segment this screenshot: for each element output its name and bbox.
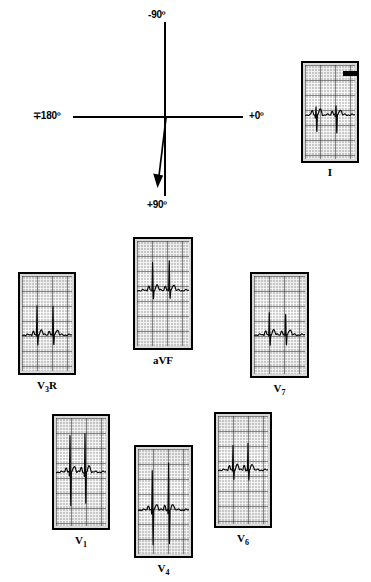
ecg-strip-v3r xyxy=(18,272,76,375)
axis-label-plus-0: +0º xyxy=(249,110,263,121)
ecg-waveform xyxy=(138,449,189,554)
ecg-grid xyxy=(22,276,72,371)
ecg-grid xyxy=(56,418,106,526)
ecg-strip-label-i: I xyxy=(301,166,359,178)
ecg-waveform xyxy=(137,241,189,346)
ecg-strip-label-v4: V4 xyxy=(134,562,193,577)
ecg-waveform xyxy=(56,418,106,526)
calibration-marker xyxy=(343,71,357,76)
ecg-waveform xyxy=(218,416,268,524)
axis-label-minus-90: -90º xyxy=(148,9,165,20)
ecg-strip-i xyxy=(301,61,359,163)
ecg-strip-label-v1: V1 xyxy=(52,534,110,549)
ecg-strip-label-avf: aVF xyxy=(133,354,193,366)
ecg-strip-v6 xyxy=(214,412,272,528)
ecg-waveform xyxy=(254,276,305,374)
ecg-strip-v7 xyxy=(250,272,309,378)
ecg-grid xyxy=(254,276,305,374)
ecg-strip-v4 xyxy=(134,445,193,558)
ecg-strip-avf xyxy=(133,237,193,350)
ecg-strip-v1 xyxy=(52,414,110,530)
ecg-waveform xyxy=(22,276,72,371)
axis-label-180: ∓180º xyxy=(33,110,60,121)
ecg-grid xyxy=(137,241,189,346)
axis-label-plus-90: +90º xyxy=(147,199,167,210)
ecg-grid xyxy=(305,65,355,159)
ecg-grid xyxy=(218,416,268,524)
ecg-strip-label-v3r: V3R xyxy=(18,379,76,394)
figure-canvas: -90º ∓180º +0º +90º IV3RaVFV7V1V4V6 xyxy=(0,0,371,582)
ecg-strip-label-v6: V6 xyxy=(214,532,272,547)
ecg-waveform xyxy=(305,65,355,159)
ecg-grid xyxy=(138,449,189,554)
ecg-strip-label-v7: V7 xyxy=(250,382,309,397)
